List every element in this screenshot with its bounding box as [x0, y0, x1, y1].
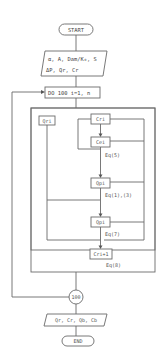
- ce-label: Cei: [96, 139, 105, 145]
- arrow-icon: [99, 175, 103, 179]
- output-label: Qr, Cr, Qb, Cb: [55, 317, 97, 323]
- loop-label: DO 100 i=1, n: [48, 90, 90, 96]
- connector-label: 100: [71, 294, 80, 300]
- eq5-label: Eq(5): [105, 152, 120, 159]
- qp-label-2: Qpi: [96, 219, 105, 226]
- input-line-1: α, A, Dam/K₀, S: [48, 56, 97, 62]
- end-label: END: [73, 338, 82, 344]
- loop-box: DO 100 i=1, n: [45, 87, 100, 98]
- qp-node-2: Qpi: [91, 217, 110, 227]
- connector-100: 100: [69, 290, 83, 304]
- qr-node: Qri: [39, 116, 55, 125]
- eq7-label: Eq(7): [105, 231, 120, 238]
- eq8-label: Eq(8): [106, 262, 121, 269]
- arrow-icon: [99, 246, 103, 250]
- qp-label-1: Qpi: [96, 180, 105, 187]
- ce-node: Cei: [91, 137, 110, 147]
- arrow-icon: [99, 214, 103, 218]
- input-line-2: ΔP, Qr, Cr: [46, 67, 79, 73]
- cr-label: Cri: [96, 116, 105, 122]
- input-parallelogram: α, A, Dam/K₀, S ΔP, Qr, Cr: [41, 51, 107, 76]
- eq13-label: Eq(1),(3): [105, 192, 132, 199]
- start-label: START: [68, 27, 85, 33]
- cr-next-node: Cri+1: [90, 249, 112, 259]
- cr-node: Cri: [91, 114, 110, 124]
- output-parallelogram: Qr, Cr, Qb, Cb: [44, 314, 107, 326]
- arrow-icon: [41, 90, 45, 94]
- arrow-icon: [99, 134, 103, 138]
- cr-next-label: Cri+1: [93, 251, 108, 257]
- qr-label: Qri: [42, 118, 51, 124]
- end-terminal: END: [62, 336, 94, 346]
- qp-node-1: Qpi: [91, 178, 110, 188]
- start-terminal: START: [59, 24, 93, 35]
- flowchart: START α, A, Dam/K₀, S ΔP, Qr, Cr DO 100 …: [0, 0, 166, 358]
